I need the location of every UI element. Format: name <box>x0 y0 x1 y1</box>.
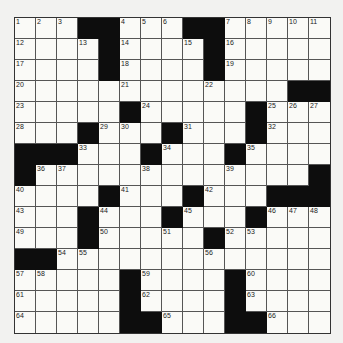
grid-cell[interactable]: 43 <box>15 207 36 228</box>
grid-cell[interactable] <box>162 165 183 186</box>
grid-cell[interactable] <box>78 186 99 207</box>
grid-cell[interactable]: 41 <box>120 186 141 207</box>
grid-cell[interactable]: 47 <box>288 207 309 228</box>
grid-cell[interactable] <box>309 39 330 60</box>
grid-cell[interactable] <box>78 291 99 312</box>
grid-cell[interactable]: 52 <box>225 228 246 249</box>
grid-cell[interactable] <box>36 207 57 228</box>
grid-cell[interactable] <box>36 228 57 249</box>
grid-cell[interactable] <box>141 39 162 60</box>
grid-cell[interactable]: 55 <box>78 249 99 270</box>
grid-cell[interactable] <box>309 312 330 333</box>
grid-cell[interactable] <box>141 186 162 207</box>
grid-cell[interactable]: 14 <box>120 39 141 60</box>
grid-cell[interactable] <box>246 249 267 270</box>
grid-cell[interactable]: 64 <box>15 312 36 333</box>
grid-cell[interactable]: 27 <box>309 102 330 123</box>
grid-cell[interactable] <box>36 102 57 123</box>
grid-cell[interactable] <box>246 81 267 102</box>
grid-cell[interactable]: 58 <box>36 270 57 291</box>
grid-cell[interactable] <box>204 165 225 186</box>
grid-cell[interactable] <box>162 270 183 291</box>
grid-cell[interactable] <box>183 165 204 186</box>
grid-cell[interactable]: 23 <box>15 102 36 123</box>
grid-cell[interactable]: 48 <box>309 207 330 228</box>
grid-cell[interactable]: 15 <box>183 39 204 60</box>
grid-cell[interactable] <box>141 228 162 249</box>
grid-cell[interactable]: 7 <box>225 18 246 39</box>
grid-cell[interactable] <box>78 81 99 102</box>
grid-cell[interactable] <box>78 165 99 186</box>
grid-cell[interactable]: 18 <box>120 60 141 81</box>
grid-cell[interactable]: 42 <box>204 186 225 207</box>
grid-cell[interactable] <box>309 270 330 291</box>
grid-cell[interactable] <box>246 60 267 81</box>
grid-cell[interactable] <box>309 60 330 81</box>
grid-cell[interactable]: 31 <box>183 123 204 144</box>
grid-cell[interactable]: 13 <box>78 39 99 60</box>
grid-cell[interactable]: 9 <box>267 18 288 39</box>
grid-cell[interactable] <box>99 165 120 186</box>
grid-cell[interactable]: 35 <box>246 144 267 165</box>
grid-cell[interactable]: 3 <box>57 18 78 39</box>
grid-cell[interactable]: 5 <box>141 18 162 39</box>
grid-cell[interactable] <box>183 144 204 165</box>
grid-cell[interactable] <box>57 186 78 207</box>
grid-cell[interactable] <box>99 249 120 270</box>
grid-cell[interactable]: 6 <box>162 18 183 39</box>
grid-cell[interactable]: 51 <box>162 228 183 249</box>
grid-cell[interactable] <box>288 291 309 312</box>
grid-cell[interactable] <box>246 165 267 186</box>
grid-cell[interactable] <box>183 81 204 102</box>
grid-cell[interactable]: 54 <box>57 249 78 270</box>
grid-cell[interactable] <box>162 291 183 312</box>
grid-cell[interactable] <box>204 270 225 291</box>
grid-cell[interactable] <box>120 228 141 249</box>
grid-cell[interactable]: 1 <box>15 18 36 39</box>
grid-cell[interactable] <box>225 81 246 102</box>
grid-cell[interactable] <box>309 249 330 270</box>
grid-cell[interactable] <box>204 102 225 123</box>
grid-cell[interactable] <box>309 144 330 165</box>
grid-cell[interactable]: 49 <box>15 228 36 249</box>
grid-cell[interactable] <box>183 270 204 291</box>
grid-cell[interactable] <box>99 102 120 123</box>
grid-cell[interactable] <box>183 291 204 312</box>
grid-cell[interactable] <box>183 60 204 81</box>
grid-cell[interactable]: 33 <box>78 144 99 165</box>
grid-cell[interactable] <box>120 144 141 165</box>
grid-cell[interactable]: 32 <box>267 123 288 144</box>
grid-cell[interactable]: 34 <box>162 144 183 165</box>
grid-cell[interactable] <box>141 81 162 102</box>
grid-cell[interactable] <box>162 102 183 123</box>
grid-cell[interactable] <box>162 60 183 81</box>
grid-cell[interactable] <box>162 249 183 270</box>
grid-cell[interactable]: 66 <box>267 312 288 333</box>
grid-cell[interactable] <box>57 123 78 144</box>
grid-cell[interactable] <box>267 165 288 186</box>
grid-cell[interactable] <box>183 312 204 333</box>
grid-cell[interactable] <box>225 186 246 207</box>
grid-cell[interactable] <box>120 249 141 270</box>
grid-cell[interactable] <box>204 291 225 312</box>
grid-cell[interactable] <box>204 144 225 165</box>
grid-cell[interactable] <box>309 123 330 144</box>
grid-cell[interactable]: 39 <box>225 165 246 186</box>
grid-cell[interactable]: 56 <box>204 249 225 270</box>
grid-cell[interactable]: 53 <box>246 228 267 249</box>
grid-cell[interactable] <box>141 249 162 270</box>
grid-cell[interactable]: 26 <box>288 102 309 123</box>
grid-cell[interactable] <box>99 291 120 312</box>
grid-cell[interactable] <box>141 207 162 228</box>
grid-cell[interactable] <box>120 207 141 228</box>
grid-cell[interactable] <box>225 102 246 123</box>
grid-cell[interactable]: 62 <box>141 291 162 312</box>
grid-cell[interactable] <box>57 81 78 102</box>
grid-cell[interactable] <box>204 123 225 144</box>
grid-cell[interactable]: 16 <box>225 39 246 60</box>
grid-cell[interactable] <box>267 249 288 270</box>
grid-cell[interactable] <box>57 207 78 228</box>
grid-cell[interactable]: 11 <box>309 18 330 39</box>
grid-cell[interactable]: 17 <box>15 60 36 81</box>
grid-cell[interactable] <box>162 81 183 102</box>
